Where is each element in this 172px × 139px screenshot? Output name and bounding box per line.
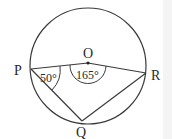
angle-label-o: 165° xyxy=(76,68,99,82)
label-q: Q xyxy=(76,125,86,139)
center-point xyxy=(86,61,89,64)
label-o: O xyxy=(83,46,93,61)
label-r: R xyxy=(151,68,161,83)
circle xyxy=(30,8,146,124)
label-p: P xyxy=(14,63,22,78)
angle-label-p: 50° xyxy=(40,71,57,85)
circle-diagram: O P R Q 50° 165° xyxy=(0,0,172,139)
